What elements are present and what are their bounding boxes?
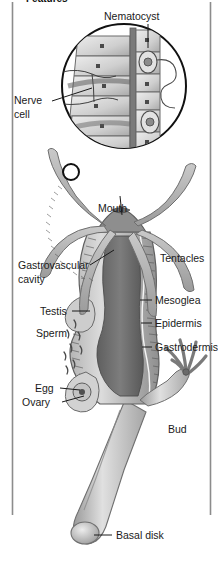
label-nerve-line1: Nerve <box>14 94 42 106</box>
label-mouth: Mouth <box>98 202 127 214</box>
label-mesoglea: Mesoglea <box>155 294 201 306</box>
bud-mouth <box>183 369 189 375</box>
nematocyst-capsule <box>141 111 159 133</box>
label-epidermis: Epidermis <box>155 317 202 329</box>
ovary-structure <box>65 372 99 412</box>
label-testis: Testis <box>40 305 67 317</box>
inset-mesoglea <box>130 28 136 158</box>
tentacle <box>48 148 106 226</box>
magnified-body-wall-inset <box>62 24 186 158</box>
label-gastrovascular-line2: cavity <box>18 273 46 285</box>
tentacle <box>134 164 196 227</box>
hydra-anatomy-figure: Nematocyst Nerve cell Mouth Tentacles Ga… <box>0 0 218 563</box>
basal-stalk <box>71 400 146 544</box>
label-ovary: Ovary <box>22 396 51 408</box>
label-basal-disk: Basal disk <box>116 529 165 541</box>
label-bud: Bud <box>168 423 187 435</box>
label-gastrodermis: Gastrodermis <box>155 341 218 353</box>
label-gastrovascular-line1: Gastrovascular <box>18 259 89 271</box>
basal-disk-structure <box>71 522 99 544</box>
epitheliomuscular-cells <box>70 36 130 154</box>
label-nematocyst: Nematocyst <box>104 10 160 22</box>
label-egg: Egg <box>35 382 54 394</box>
label-sperm: Sperm <box>36 327 67 339</box>
cnidocyte-cells <box>136 30 160 154</box>
label-tentacles: Tentacles <box>160 252 204 264</box>
label-nerve-line2: cell <box>14 108 30 120</box>
nematocyst-capsule <box>139 51 157 73</box>
tentacle-magnify-marker <box>63 164 79 180</box>
